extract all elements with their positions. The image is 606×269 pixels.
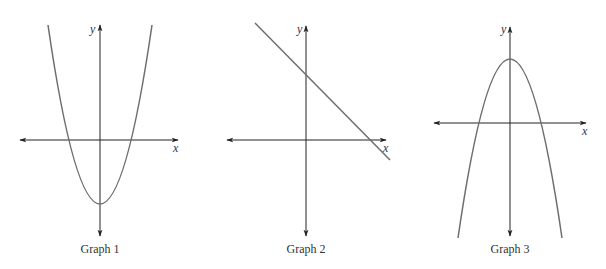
graph-3-x-label: x	[582, 124, 587, 139]
graph-2	[227, 23, 390, 236]
graph-1-x-label: x	[173, 141, 178, 156]
graph-3-caption: Graph 3	[470, 242, 550, 257]
graph-3-y-label: y	[501, 22, 506, 37]
graph-2-caption: Graph 2	[266, 242, 346, 257]
graph-2-y-label: y	[297, 22, 302, 37]
graph-3	[434, 27, 586, 238]
graph-1-y-label: y	[90, 22, 95, 37]
graph-1	[20, 25, 178, 236]
graph-2-x-label: x	[383, 141, 388, 156]
graph-1-caption: Graph 1	[60, 242, 140, 257]
graph-2-line	[255, 23, 390, 160]
graphs-canvas	[0, 0, 606, 269]
